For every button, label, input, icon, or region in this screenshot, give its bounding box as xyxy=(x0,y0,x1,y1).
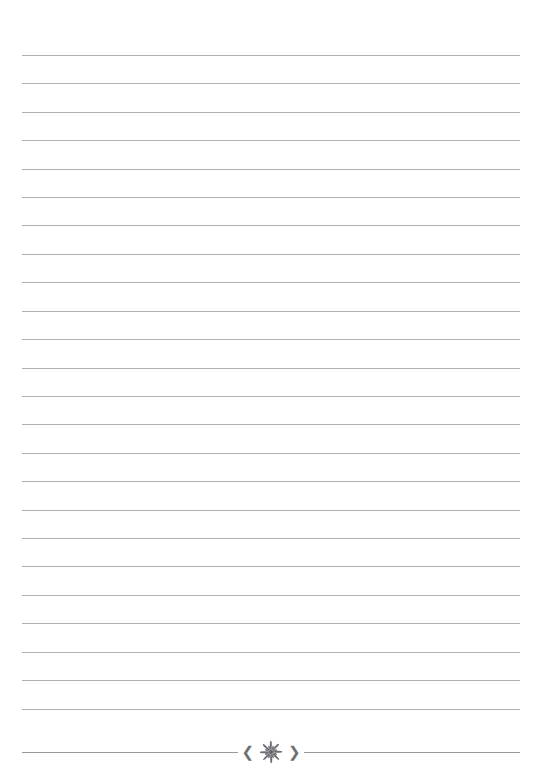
rule-line[interactable] xyxy=(22,83,520,84)
footer-rule-right-segment xyxy=(304,752,520,753)
rule-line[interactable] xyxy=(22,339,520,340)
rule-line[interactable] xyxy=(22,453,520,454)
rule-line[interactable] xyxy=(22,424,520,425)
rule-line[interactable] xyxy=(22,396,520,397)
rule-line[interactable] xyxy=(22,566,520,567)
footer-rule-left-segment xyxy=(22,752,238,753)
rule-line[interactable] xyxy=(22,197,520,198)
rule-line[interactable] xyxy=(22,652,520,653)
rule-line[interactable] xyxy=(22,481,520,482)
floral-starburst-divider-icon: ❮ ❯ xyxy=(238,739,303,765)
rule-line[interactable] xyxy=(22,368,520,369)
starburst-icon xyxy=(256,739,286,765)
stationery-page: ❮ ❯ xyxy=(0,0,542,783)
rule-line[interactable] xyxy=(22,112,520,113)
rule-line[interactable] xyxy=(22,709,520,710)
chevron-left-icon: ❮ xyxy=(241,744,254,759)
rule-line[interactable] xyxy=(22,311,520,312)
footer-ornament-rule: ❮ ❯ xyxy=(0,732,542,772)
rule-line[interactable] xyxy=(22,680,520,681)
rule-line[interactable] xyxy=(22,140,520,141)
rule-line[interactable] xyxy=(22,538,520,539)
rule-line[interactable] xyxy=(22,623,520,624)
rule-line[interactable] xyxy=(22,225,520,226)
rule-line[interactable] xyxy=(22,282,520,283)
rule-line[interactable] xyxy=(22,595,520,596)
writing-area[interactable] xyxy=(0,0,542,740)
rule-line[interactable] xyxy=(22,510,520,511)
rule-line[interactable] xyxy=(22,55,520,56)
rule-line[interactable] xyxy=(22,169,520,170)
starburst-center-dot xyxy=(269,750,273,754)
chevron-right-icon: ❯ xyxy=(288,744,301,759)
rule-line[interactable] xyxy=(22,254,520,255)
